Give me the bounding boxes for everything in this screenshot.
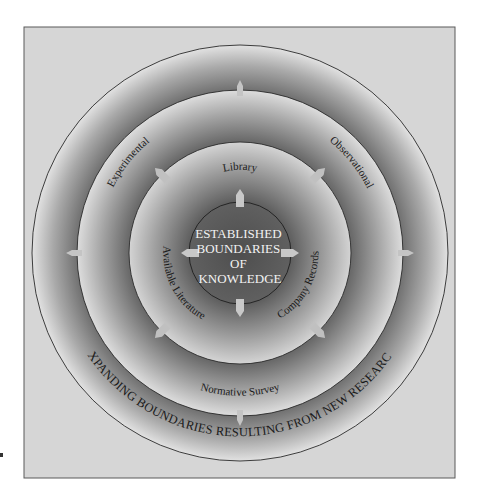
center-label-line-1: ESTABLISHED <box>195 226 281 241</box>
center-label-line-3: OF <box>230 256 247 271</box>
knowledge-boundaries-diagram: ESTABLISHED BOUNDARIES OF KNOWLEDGE Libr… <box>0 0 478 499</box>
center-label-line-2: BOUNDARIES <box>196 241 280 256</box>
label-library: Library <box>222 160 259 174</box>
edge-mark <box>0 453 3 457</box>
center-label-line-4: KNOWLEDGE <box>198 271 281 286</box>
